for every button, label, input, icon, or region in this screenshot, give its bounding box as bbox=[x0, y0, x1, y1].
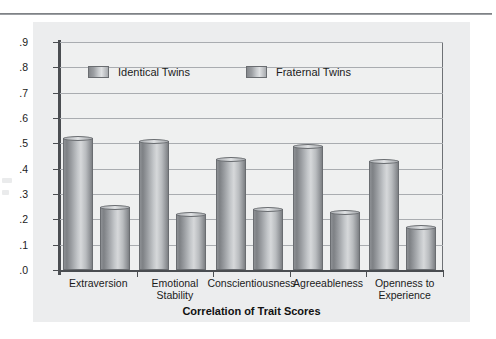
y-tick-mark bbox=[53, 118, 58, 119]
y-tick-mark bbox=[53, 143, 58, 144]
bar bbox=[293, 146, 323, 270]
bar bbox=[100, 207, 130, 270]
y-axis-line bbox=[58, 40, 61, 275]
bar bbox=[176, 214, 206, 270]
bar-top-cap bbox=[293, 144, 323, 149]
y-tick-mark bbox=[53, 219, 58, 220]
legend-swatch-identical-twins bbox=[88, 66, 109, 78]
margin-artifact-upper bbox=[2, 178, 12, 183]
y-tick-mark bbox=[53, 93, 58, 94]
bar bbox=[139, 141, 169, 270]
y-tick-mark bbox=[53, 270, 58, 271]
y-tick-label: .8 bbox=[19, 62, 33, 73]
y-tick-label: .5 bbox=[19, 138, 33, 149]
legend-swatch-fraternal-twins bbox=[246, 66, 267, 78]
figure-panel: .9.8.7.6.5.4.3.2.1.0 ExtraversionEmotion… bbox=[33, 22, 470, 322]
y-tick-label: .9 bbox=[19, 37, 33, 48]
y-tick-label: .4 bbox=[19, 163, 33, 174]
y-tick-label: .1 bbox=[19, 239, 33, 250]
gridline bbox=[60, 42, 443, 43]
bar bbox=[369, 161, 399, 270]
bar-top-cap bbox=[406, 225, 436, 230]
margin-artifact-lower bbox=[2, 190, 9, 195]
bar bbox=[330, 212, 360, 270]
bar-top-cap bbox=[216, 157, 246, 162]
x-axis-line bbox=[58, 270, 444, 272]
gridline bbox=[60, 143, 443, 144]
bar-top-cap bbox=[139, 139, 169, 144]
x-axis-category-label: Openness to Experience bbox=[375, 278, 435, 301]
x-axis-title: Correlation of Trait Scores bbox=[33, 305, 470, 317]
x-axis-category-label: Emotional Stability bbox=[152, 278, 199, 301]
x-tick-mark bbox=[366, 272, 367, 277]
bar-top-cap bbox=[176, 212, 206, 217]
y-tick-label: .6 bbox=[19, 113, 33, 124]
bar-top-cap bbox=[63, 136, 93, 141]
y-tick-mark bbox=[53, 245, 58, 246]
bar bbox=[406, 227, 436, 270]
chart-legend: Identical Twins Fraternal Twins bbox=[88, 66, 351, 78]
y-tick-label: .3 bbox=[19, 189, 33, 200]
x-tick-mark bbox=[137, 272, 138, 277]
legend-item-identical-twins: Identical Twins bbox=[88, 66, 190, 78]
x-axis-category-label: Conscientiousness bbox=[207, 278, 295, 290]
bar bbox=[216, 159, 246, 270]
y-tick-label: .0 bbox=[19, 265, 33, 276]
x-axis-category-label: Extraversion bbox=[69, 278, 127, 290]
y-tick-mark bbox=[53, 169, 58, 170]
x-tick-mark bbox=[443, 272, 444, 277]
bar bbox=[253, 209, 283, 270]
legend-item-fraternal-twins: Fraternal Twins bbox=[246, 66, 351, 78]
legend-label-fraternal-twins: Fraternal Twins bbox=[276, 66, 351, 78]
x-axis-category-label: Agreeableness bbox=[293, 278, 363, 290]
y-tick-label: .2 bbox=[19, 214, 33, 225]
y-tick-mark bbox=[53, 194, 58, 195]
bar-top-cap bbox=[330, 210, 360, 215]
y-tick-mark bbox=[53, 67, 58, 68]
bar-top-cap bbox=[369, 159, 399, 164]
bar-top-cap bbox=[253, 207, 283, 212]
y-tick-mark bbox=[53, 42, 58, 43]
bar-top-cap bbox=[100, 205, 130, 210]
bar bbox=[63, 138, 93, 270]
legend-label-identical-twins: Identical Twins bbox=[118, 66, 190, 78]
y-tick-label: .7 bbox=[19, 87, 33, 98]
gridline bbox=[60, 118, 443, 119]
top-divider-rule bbox=[0, 13, 492, 15]
gridline bbox=[60, 93, 443, 94]
